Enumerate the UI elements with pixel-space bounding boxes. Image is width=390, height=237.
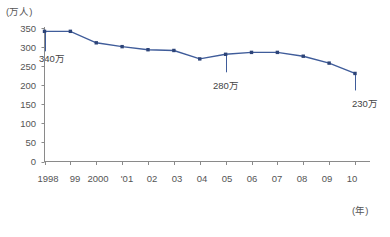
plot-area <box>0 0 390 237</box>
data-point-markers <box>43 30 357 76</box>
data-point-marker <box>172 49 175 52</box>
data-point-marker <box>250 51 253 54</box>
data-point-marker <box>327 61 330 64</box>
x-tick-marks <box>46 162 356 166</box>
data-point-marker <box>120 45 123 48</box>
data-point-marker <box>146 48 149 51</box>
data-point-marker <box>95 41 98 44</box>
data-point-marker <box>43 30 46 33</box>
data-point-marker <box>198 57 201 60</box>
data-line <box>45 31 356 73</box>
data-point-marker <box>69 30 72 33</box>
line-chart: (万人) (年) 350 300 250 200 150 100 50 0 19… <box>0 0 390 237</box>
data-point-marker <box>302 55 305 58</box>
data-point-marker <box>276 51 279 54</box>
data-point-marker <box>224 53 227 56</box>
data-point-marker <box>353 72 356 75</box>
axis-lines <box>45 27 371 162</box>
